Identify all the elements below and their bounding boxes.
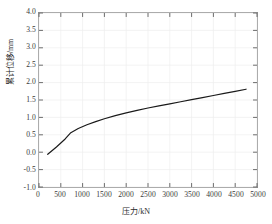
y-tick-label: 0.5	[2, 131, 36, 139]
x-tick-label: 2000	[118, 191, 134, 199]
y-tick-label: 1.0	[2, 114, 36, 122]
y-axis-title: 累计位移/mm	[4, 14, 15, 110]
x-tick-label: 500	[54, 191, 66, 199]
data-series-line	[39, 13, 257, 187]
x-tick-label: 5000	[250, 191, 266, 199]
x-tick-label: 1000	[74, 191, 90, 199]
x-axis-tick-labels: 0500100015002000250030003500400045005000	[0, 191, 272, 203]
x-tick-label: 3500	[184, 191, 200, 199]
plot-area	[38, 12, 258, 188]
y-axis-title-wrapper: 累计位移/mm	[4, 14, 16, 110]
y-tick-label: -0.5	[2, 166, 36, 174]
chart-figure: -1.0-0.50.00.51.01.52.02.53.03.54.0 累计位移…	[0, 0, 272, 224]
x-tick-label: 4500	[228, 191, 244, 199]
y-tick-label: 0.0	[2, 149, 36, 157]
x-axis-title: 压力/kN	[0, 205, 272, 216]
x-tick-label: 2500	[140, 191, 156, 199]
x-tick-label: 0	[36, 191, 40, 199]
x-tick-label: 3000	[162, 191, 178, 199]
x-tick-label: 4000	[206, 191, 222, 199]
x-tick-label: 1500	[96, 191, 112, 199]
